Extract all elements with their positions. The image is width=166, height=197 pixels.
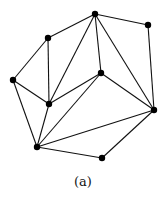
edge-top-top-right xyxy=(95,14,148,25)
nodes-group xyxy=(10,11,157,161)
edge-bottom-left-bottom xyxy=(37,147,102,158)
edge-right-bottom-left xyxy=(37,110,154,147)
edge-upper-left-left xyxy=(13,38,48,80)
node-top-right xyxy=(145,22,151,28)
edge-top-upper-left xyxy=(48,14,95,38)
graph-diagram xyxy=(0,0,166,170)
node-upper-left xyxy=(45,35,51,41)
edge-top-right-right xyxy=(148,25,154,110)
edge-center-bottom-left xyxy=(37,73,101,147)
node-middle-left xyxy=(46,101,52,107)
node-left xyxy=(10,77,16,83)
edge-left-middle-left xyxy=(13,80,49,104)
edge-left-bottom-left xyxy=(13,80,37,147)
edge-upper-left-middle-left xyxy=(48,38,49,104)
node-top xyxy=(92,11,98,17)
figure-caption: (a) xyxy=(0,174,166,189)
node-bottom-left xyxy=(34,144,40,150)
node-right xyxy=(151,107,157,113)
node-bottom xyxy=(99,155,105,161)
edge-center-right xyxy=(101,73,154,110)
node-center xyxy=(98,70,104,76)
edge-top-right xyxy=(95,14,154,110)
edges-group xyxy=(13,14,154,158)
edge-right-bottom xyxy=(102,110,154,158)
